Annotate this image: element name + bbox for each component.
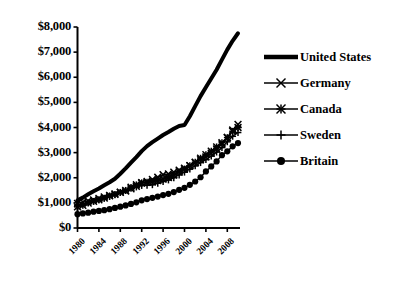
- legend-swatch-circle-icon: [263, 152, 299, 170]
- legend-swatch-x-icon: [263, 74, 299, 92]
- chart-container: $8,000$7,000$6,000$5,000$4,000$3,000$2,0…: [0, 0, 399, 281]
- legend-item-sweden[interactable]: Sweden: [263, 122, 399, 148]
- legend-item-united-states[interactable]: United States: [263, 44, 399, 70]
- legend-label: Canada: [300, 103, 342, 116]
- legend-label: Sweden: [300, 129, 341, 142]
- legend-swatch-none-icon: [263, 48, 299, 66]
- legend-item-britain[interactable]: Britain: [263, 148, 399, 174]
- legend-label: Britain: [300, 155, 338, 168]
- legend-item-germany[interactable]: Germany: [263, 70, 399, 96]
- legend-label: United States: [300, 51, 371, 64]
- legend-swatch-plus-icon: [263, 126, 299, 144]
- legend-item-canada[interactable]: Canada: [263, 96, 399, 122]
- legend-swatch-asterisk-icon: [263, 100, 299, 118]
- legend-label: Germany: [300, 77, 351, 90]
- legend-marker: [277, 157, 285, 165]
- chart-legend: United StatesGermanyCanadaSwedenBritain: [263, 44, 399, 174]
